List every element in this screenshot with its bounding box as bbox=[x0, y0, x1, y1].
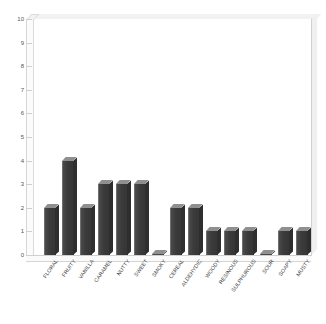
y-axis-tick-label: 9 bbox=[2, 40, 24, 46]
x-axis-tick-label: SMOKY bbox=[151, 258, 167, 278]
bar-column bbox=[188, 19, 205, 255]
bar-side-face bbox=[181, 204, 185, 255]
y-axis-tick-label: 8 bbox=[2, 63, 24, 69]
y-axis-tick bbox=[26, 184, 32, 185]
bar bbox=[116, 184, 127, 255]
bar bbox=[170, 208, 181, 255]
bar-column bbox=[98, 19, 115, 255]
bar-side-face bbox=[289, 228, 293, 255]
bar bbox=[206, 231, 217, 255]
bar-side-face bbox=[109, 181, 113, 255]
bar-column bbox=[278, 19, 295, 255]
bar-column bbox=[134, 19, 151, 255]
x-axis-tick-label: CEREAL bbox=[167, 258, 185, 280]
bar bbox=[152, 254, 163, 255]
bar-column bbox=[170, 19, 187, 255]
y-axis-tick bbox=[26, 19, 32, 20]
y-axis-tick-label: 4 bbox=[2, 158, 24, 164]
x-axis-tick-label: CARAMEL bbox=[93, 258, 113, 283]
x-axis-tick-label: SOUR bbox=[261, 258, 275, 275]
y-axis-tick bbox=[26, 255, 32, 256]
bar-side-face bbox=[253, 228, 257, 255]
bar-side-face bbox=[127, 181, 131, 255]
bar-column bbox=[116, 19, 133, 255]
y-axis-tick bbox=[26, 66, 32, 67]
bar-chart: 012345678910 FLORALFRUITYVANILLACARAMELN… bbox=[0, 0, 326, 324]
bar-column bbox=[80, 19, 97, 255]
bar bbox=[278, 231, 289, 255]
bar bbox=[242, 231, 253, 255]
x-axis-tick-label: FRUITY bbox=[61, 258, 77, 278]
bar bbox=[188, 208, 199, 255]
bar-column bbox=[62, 19, 79, 255]
bar-column bbox=[152, 19, 169, 255]
x-axis-tick-label: WOODY bbox=[204, 258, 221, 279]
x-axis-labels: FLORALFRUITYVANILLACARAMELNUTTYSWEETSMOK… bbox=[31, 258, 316, 324]
bar-side-face bbox=[307, 228, 311, 255]
y-axis-labels: 012345678910 bbox=[0, 0, 24, 324]
y-axis-tick-label: 5 bbox=[2, 134, 24, 140]
bar-side-face bbox=[199, 204, 203, 255]
x-axis-tick-label: NUTTY bbox=[116, 258, 132, 277]
y-axis-tick-label: 0 bbox=[2, 252, 24, 258]
bar bbox=[62, 161, 73, 255]
y-axis-tick-label: 7 bbox=[2, 87, 24, 93]
bar bbox=[98, 184, 109, 255]
bar-side-face bbox=[145, 181, 149, 255]
x-axis-tick-label: VANILLA bbox=[77, 258, 95, 280]
bar-side-face bbox=[91, 204, 95, 255]
bar-column bbox=[260, 19, 277, 255]
y-axis-tick-label: 10 bbox=[2, 16, 24, 22]
bar-column bbox=[242, 19, 259, 255]
y-axis-tick bbox=[26, 137, 32, 138]
x-axis-tick-label: SWEET bbox=[133, 258, 149, 278]
y-axis-tick bbox=[26, 161, 32, 162]
y-axis-tick bbox=[26, 43, 32, 44]
bar-side-face bbox=[73, 157, 77, 255]
bar-series bbox=[31, 19, 311, 255]
bar-column bbox=[44, 19, 61, 255]
y-axis-tick bbox=[26, 113, 32, 114]
bar-column bbox=[296, 19, 313, 255]
bar bbox=[44, 208, 55, 255]
bar-side-face bbox=[55, 204, 59, 255]
y-axis-tick-label: 3 bbox=[2, 181, 24, 187]
x-axis-tick-label: FLORAL bbox=[42, 258, 59, 279]
x-axis-tick-label: SOAPY bbox=[277, 258, 293, 277]
x-axis-tick-label: MUSTY bbox=[295, 258, 311, 277]
bar bbox=[80, 208, 91, 255]
y-axis-tick bbox=[26, 231, 32, 232]
bar bbox=[296, 231, 307, 255]
bar bbox=[224, 231, 235, 255]
bar-column bbox=[206, 19, 223, 255]
y-axis-tick-label: 1 bbox=[2, 228, 24, 234]
y-axis-tick-label: 2 bbox=[2, 205, 24, 211]
bar bbox=[134, 184, 145, 255]
bar bbox=[260, 254, 271, 255]
bar-front-face bbox=[278, 231, 290, 255]
bar-side-face bbox=[217, 228, 221, 255]
y-axis-tick bbox=[26, 90, 32, 91]
y-axis-tick-label: 6 bbox=[2, 110, 24, 116]
bar-column bbox=[224, 19, 241, 255]
bar-side-face bbox=[235, 228, 239, 255]
y-axis-tick bbox=[26, 208, 32, 209]
bar-front-face bbox=[296, 231, 308, 255]
